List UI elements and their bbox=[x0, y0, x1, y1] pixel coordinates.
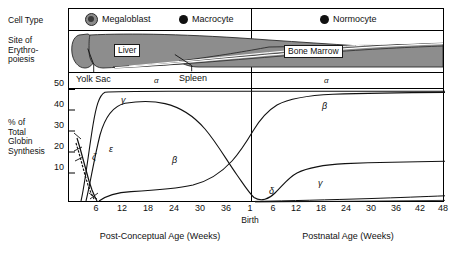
curve-label-delta: δ bbox=[269, 186, 274, 196]
megaloblast-circle-icon bbox=[85, 13, 98, 26]
x-tick-post-18: 18 bbox=[312, 203, 330, 213]
x-tick-pre-30: 30 bbox=[191, 203, 209, 213]
figure-root: Cell Type Site of Erythro- poiesis % of … bbox=[0, 0, 461, 264]
divider-below-band bbox=[69, 72, 443, 73]
y-axis-tick-labels: 50 40 30 20 10 bbox=[34, 8, 64, 202]
x-tick-post-30: 30 bbox=[362, 203, 380, 213]
x-tick-post-6: 6 bbox=[264, 203, 282, 213]
figure-plate: Megaloblast Macrocyte Normocyte bbox=[68, 8, 444, 202]
erythropoiesis-band: Liver Bone Marrow bbox=[69, 31, 443, 72]
alpha-label-prenatal: α bbox=[154, 75, 159, 86]
legend-label-megaloblast: Megaloblast bbox=[102, 13, 151, 26]
x-tick-post-24: 24 bbox=[337, 203, 355, 213]
x-tick-post-12: 12 bbox=[287, 203, 305, 213]
globin-curves bbox=[69, 89, 445, 203]
y-tick-10: 10 bbox=[54, 163, 64, 172]
x-tick-pre-12: 12 bbox=[113, 203, 131, 213]
x-tick-pre-36: 36 bbox=[217, 203, 235, 213]
birth-label: Birth bbox=[230, 215, 270, 225]
x-tick-post-1: 1 bbox=[241, 203, 259, 213]
x-tick-post-48: 48 bbox=[434, 203, 452, 213]
curve-label-zeta: ζ bbox=[92, 152, 96, 162]
tissue-tag-liver: Liver bbox=[114, 44, 140, 57]
axis-title-post-conceptual: Post-Conceptual Age (Weeks) bbox=[70, 231, 250, 241]
tissue-label-spleen: Spleen bbox=[179, 73, 207, 84]
y-tick-50: 50 bbox=[54, 79, 64, 88]
x-tick-pre-18: 18 bbox=[139, 203, 157, 213]
legend-item-megaloblast: Megaloblast bbox=[85, 13, 151, 26]
macrocyte-circle-icon bbox=[179, 15, 188, 24]
curve-label-epsilon: ε bbox=[109, 144, 113, 154]
legend-item-normocyte: Normocyte bbox=[320, 13, 377, 26]
x-tick-post-42: 42 bbox=[411, 203, 429, 213]
tissue-label-yolk-sac: Yolk Sac bbox=[76, 74, 111, 85]
axis-title-postnatal: Postnatal Age (Weeks) bbox=[252, 231, 444, 241]
globin-synthesis-graph: γ β ε ζ β γ δ bbox=[69, 89, 443, 203]
curve-label-gamma-postnatal: γ bbox=[318, 178, 323, 188]
curve-label-beta-prenatal: β bbox=[172, 155, 177, 165]
curve-label-beta-postnatal: β bbox=[322, 101, 327, 111]
tissue-tag-bone-marrow: Bone Marrow bbox=[284, 45, 343, 58]
x-tick-pre-24: 24 bbox=[165, 203, 183, 213]
legend-label-macrocyte: Macrocyte bbox=[192, 13, 234, 26]
y-tick-30: 30 bbox=[54, 121, 64, 130]
alpha-label-postnatal: α bbox=[324, 75, 329, 86]
y-tick-20: 20 bbox=[54, 142, 64, 151]
x-tick-post-36: 36 bbox=[387, 203, 405, 213]
legend-item-macrocyte: Macrocyte bbox=[179, 13, 234, 26]
legend-label-normocyte: Normocyte bbox=[333, 13, 377, 26]
x-tick-pre-6: 6 bbox=[87, 203, 105, 213]
y-tick-40: 40 bbox=[54, 100, 64, 109]
normocyte-circle-icon bbox=[320, 15, 329, 24]
curve-label-gamma-prenatal: γ bbox=[121, 95, 126, 105]
